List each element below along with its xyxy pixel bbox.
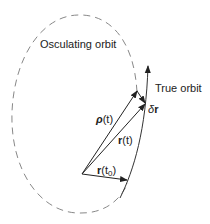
orbit-diagram: Osculating orbit True orbit δr ρ(t) r(t)…	[0, 0, 210, 224]
r-t0-arg-open: (t	[101, 164, 108, 176]
delta-r-label: δr	[148, 103, 159, 115]
true-orbit-curve	[120, 66, 148, 198]
delta-r-vector-arrow	[137, 91, 145, 103]
r-t0-label: r(t0)	[97, 164, 116, 178]
rho-vector-arrow	[82, 91, 137, 174]
osculating-orbit-label: Osculating orbit	[40, 38, 116, 50]
r-t-label: r(t)	[118, 134, 133, 146]
rho-arg: (t)	[103, 113, 113, 125]
r-t-arg: (t)	[122, 134, 132, 146]
true-orbit-label: True orbit	[155, 82, 202, 94]
rho-label: ρ(t)	[95, 113, 113, 125]
r-t0-arg-close: )	[112, 164, 116, 176]
delta-r-symbol: r	[154, 103, 159, 115]
